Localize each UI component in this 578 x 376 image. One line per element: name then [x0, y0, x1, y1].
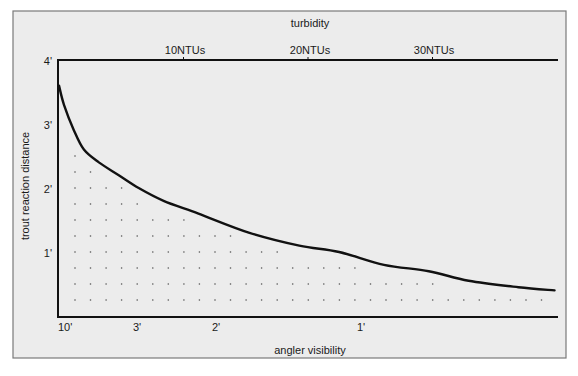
fill-dot — [447, 299, 449, 301]
fill-dot — [105, 235, 107, 237]
fill-dot — [121, 283, 123, 285]
fill-dot — [152, 235, 154, 237]
fill-dot — [74, 283, 76, 285]
fill-dot — [183, 283, 185, 285]
fill-dot — [292, 267, 294, 269]
fill-dot — [214, 251, 216, 253]
fill-dot — [245, 299, 247, 301]
fill-dot — [199, 299, 201, 301]
fill-dot — [510, 299, 512, 301]
fill-dot — [416, 283, 418, 285]
fill-dot — [354, 283, 356, 285]
fill-dot — [525, 299, 527, 301]
fill-dot — [385, 283, 387, 285]
fill-dot — [354, 299, 356, 301]
fill-dot — [261, 267, 263, 269]
fill-dot — [401, 299, 403, 301]
fill-dot — [90, 299, 92, 301]
fill-dot — [105, 267, 107, 269]
top-axis-title: turbidity — [291, 17, 330, 29]
fill-dot — [74, 251, 76, 253]
fill-dot — [183, 235, 185, 237]
fill-dot — [105, 187, 107, 189]
top-tick-label-10: 10NTUs — [165, 44, 206, 56]
fill-dot — [276, 283, 278, 285]
fill-dot — [261, 283, 263, 285]
fill-dot — [230, 299, 232, 301]
fill-dot — [136, 219, 138, 221]
fill-dot — [90, 203, 92, 205]
fill-dot — [245, 251, 247, 253]
fill-dot — [74, 203, 76, 205]
fill-dot — [432, 283, 434, 285]
y-tick-label-3: 3' — [44, 119, 52, 131]
bottom-tick-label-2ft: 2' — [212, 321, 220, 333]
fill-dot — [183, 219, 185, 221]
fill-dot — [370, 283, 372, 285]
fill-dot — [105, 251, 107, 253]
fill-dot — [214, 299, 216, 301]
fill-dot — [90, 251, 92, 253]
fill-dot — [74, 155, 76, 157]
bottom-tick-label-1ft: 1' — [357, 321, 365, 333]
fill-dot — [339, 299, 341, 301]
fill-dot — [276, 267, 278, 269]
fill-dot — [276, 251, 278, 253]
fill-dot — [168, 283, 170, 285]
fill-dot — [105, 283, 107, 285]
fill-dot — [121, 267, 123, 269]
fill-dot — [432, 299, 434, 301]
fill-dot — [183, 299, 185, 301]
y-tick-label-2: 2' — [44, 183, 52, 195]
fill-dot — [152, 267, 154, 269]
fill-dot — [121, 219, 123, 221]
fill-dot — [121, 187, 123, 189]
chart-figure: turbidity 10NTUs 20NTUs 30NTUs 4' 3' 2' … — [0, 0, 578, 376]
fill-dot — [183, 251, 185, 253]
fill-dot — [105, 203, 107, 205]
fill-dot — [276, 299, 278, 301]
fill-dot — [416, 299, 418, 301]
fill-dot — [90, 267, 92, 269]
fill-dot — [230, 251, 232, 253]
fill-dot — [385, 299, 387, 301]
fill-dot — [230, 267, 232, 269]
fill-dot — [121, 203, 123, 205]
fill-dot — [105, 219, 107, 221]
fill-dot — [121, 251, 123, 253]
fill-dot — [401, 283, 403, 285]
fill-dot — [136, 251, 138, 253]
fill-dot — [308, 267, 310, 269]
fill-dot — [494, 299, 496, 301]
fill-dot — [245, 283, 247, 285]
fill-dot — [152, 251, 154, 253]
fill-dot — [308, 299, 310, 301]
fill-dot — [463, 299, 465, 301]
fill-dot — [121, 299, 123, 301]
fill-dot — [308, 283, 310, 285]
fill-dot — [74, 235, 76, 237]
fill-dot — [136, 283, 138, 285]
bottom-tick-label-3ft: 3' — [133, 321, 141, 333]
fill-dot — [74, 299, 76, 301]
fill-dot — [152, 283, 154, 285]
bottom-axis-title: angler visibility — [274, 344, 346, 356]
fill-dot — [292, 299, 294, 301]
fill-dot — [479, 299, 481, 301]
fill-dot — [121, 235, 123, 237]
fill-dot — [136, 299, 138, 301]
fill-dot — [354, 267, 356, 269]
fill-dot — [214, 235, 216, 237]
fill-dot — [339, 267, 341, 269]
fill-dot — [90, 235, 92, 237]
fill-dot — [168, 251, 170, 253]
fill-dot — [168, 235, 170, 237]
fill-dot — [261, 251, 263, 253]
fill-dot — [370, 299, 372, 301]
fill-dot — [230, 283, 232, 285]
fill-dot — [199, 251, 201, 253]
fill-dot — [168, 299, 170, 301]
fill-dot — [90, 219, 92, 221]
fill-dot — [136, 203, 138, 205]
fill-dot — [214, 283, 216, 285]
